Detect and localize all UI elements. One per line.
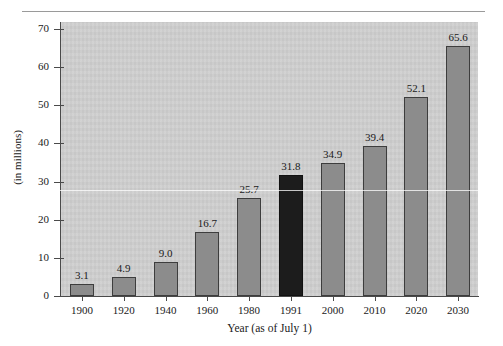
- bar-value-label-2010: 39.4: [345, 132, 405, 143]
- x-axis-tick: [207, 297, 208, 301]
- y-axis-tick: [54, 296, 64, 297]
- bar-value-label-1920: 4.9: [94, 263, 154, 274]
- bar-2020: [404, 97, 428, 296]
- y-axis-tick: [54, 143, 64, 144]
- bar-2000: [321, 163, 345, 296]
- bar-value-label-2030: 65.6: [428, 32, 488, 43]
- y-axis-tick-label: 70: [19, 23, 49, 34]
- y-axis-tick-label: 10: [19, 252, 49, 263]
- x-axis-tick: [124, 297, 125, 301]
- y-axis-tick: [54, 182, 64, 183]
- y-axis-line: [60, 22, 61, 297]
- bar-value-label-2020: 52.1: [386, 83, 446, 94]
- y-axis-tick-label: 50: [19, 99, 49, 110]
- bar-1920: [112, 277, 136, 296]
- y-axis-tick-label: 40: [19, 137, 49, 148]
- bar-1991: [279, 175, 303, 296]
- x-axis-title: Year (as of July 1): [60, 323, 479, 335]
- x-axis-tick: [416, 297, 417, 301]
- bar-value-label-1940: 9.0: [136, 248, 196, 259]
- bar-2010: [363, 146, 387, 296]
- y-axis-tick-label: 0: [19, 290, 49, 301]
- y-axis-tick-label: 60: [19, 61, 49, 72]
- y-axis-tick: [54, 67, 64, 68]
- bar-1960: [195, 232, 219, 296]
- top-divider-rule: [22, 11, 485, 12]
- bar-value-label-1960: 16.7: [177, 218, 237, 229]
- bar-value-label-1980: 25.7: [219, 184, 279, 195]
- x-axis-tick: [166, 297, 167, 301]
- y-axis-tick-label: 30: [19, 176, 49, 187]
- y-axis-tick-label: 20: [19, 214, 49, 225]
- bar-1940: [154, 262, 178, 296]
- x-axis-tick: [333, 297, 334, 301]
- bar-1900: [70, 284, 94, 296]
- x-axis-tick-label-2030: 2030: [428, 305, 488, 316]
- bar-1980: [237, 198, 261, 296]
- x-axis-tick: [375, 297, 376, 301]
- x-axis-tick: [249, 297, 250, 301]
- y-axis-tick: [54, 29, 64, 30]
- y-axis-tick: [54, 258, 64, 259]
- x-axis-tick: [458, 297, 459, 301]
- chart-figure: 010203040506070 190019201940196019801991…: [0, 0, 503, 346]
- y-axis-tick: [54, 220, 64, 221]
- bar-value-label-1991: 31.8: [261, 161, 321, 172]
- y-axis-title: (in millions): [12, 108, 23, 208]
- x-axis-tick: [82, 297, 83, 301]
- bar-2030: [446, 46, 470, 296]
- bar-value-label-2000: 34.9: [303, 149, 363, 160]
- x-axis-tick: [291, 297, 292, 301]
- y-axis-tick: [54, 105, 64, 106]
